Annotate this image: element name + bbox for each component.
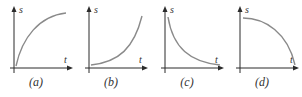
y-axis-arrow-icon [87,6,92,12]
curve-b [91,16,142,65]
x-axis-label: t [139,54,142,65]
x-axis-arrow-icon [67,66,73,71]
x-axis-label: t [215,54,218,65]
y-axis-label: s [19,4,23,15]
y-axis-arrow-icon [163,6,168,12]
panel-caption: (b) [104,75,118,89]
panel-d: st(d) [236,4,299,89]
panel-b: st(b) [85,4,148,89]
y-axis-arrow-icon [238,6,243,12]
x-axis-label: t [64,54,67,65]
curve-d [243,18,295,65]
y-axis-arrow-icon [12,6,17,12]
panel-caption: (c) [180,75,193,89]
curve-c [168,17,220,65]
figure: st(a)st(b)st(c)st(d) [0,0,302,97]
x-axis-arrow-icon [218,66,224,71]
x-axis-arrow-icon [142,66,148,71]
curve-a [16,13,66,66]
panel-c: st(c) [161,4,224,89]
y-axis-label: s [245,4,249,15]
y-axis-label: s [94,4,98,15]
panel-caption: (a) [29,75,43,89]
x-axis-arrow-icon [293,66,299,71]
y-axis-label: s [170,4,174,15]
panel-caption: (d) [255,75,269,89]
panel-a: st(a) [10,4,73,89]
